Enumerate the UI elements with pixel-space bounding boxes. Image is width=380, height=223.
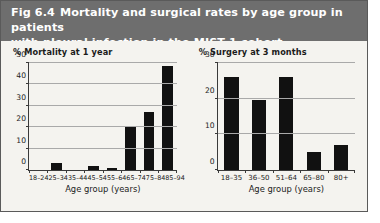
x-tick-label: 36–50 [245, 174, 272, 182]
bar-slot [328, 63, 355, 170]
gridline [218, 98, 355, 99]
y-tick-mark [26, 148, 29, 149]
y-tick-label: 10 [16, 135, 26, 144]
bar [88, 166, 99, 170]
y-tick-label: 50 [16, 50, 26, 59]
x-tick-mark [121, 170, 122, 173]
x-tick-label: 35–44 [68, 174, 87, 182]
y-tick-mark [215, 98, 218, 99]
gridline [218, 133, 355, 134]
figure-container: Fig 6.4Mortality and surgical rates by a… [0, 0, 368, 212]
y-tick-label: 0 [210, 157, 215, 166]
y-tick-mark [215, 133, 218, 134]
x-tick-mark [300, 170, 301, 173]
y-tick-mark [26, 62, 29, 63]
x-tick-mark [354, 170, 355, 173]
bar [334, 145, 348, 170]
bar-slot [158, 63, 176, 170]
x-tick-label: 55–64 [107, 174, 126, 182]
bar [162, 66, 173, 170]
figure-header: Fig 6.4Mortality and surgical rates by a… [1, 1, 367, 41]
bar [51, 163, 62, 170]
x-tick-mark [140, 170, 141, 173]
x-tick-mark [158, 170, 159, 173]
bar-group-mortality [29, 63, 177, 170]
y-tick-label: 40 [16, 71, 26, 80]
y-tick-label: 30 [16, 92, 26, 101]
bar-slot [300, 63, 327, 170]
x-tick-label: 51–64 [273, 174, 300, 182]
bar-slot [140, 63, 158, 170]
figure-title-line1: Mortality and surgical rates by age grou… [11, 6, 343, 34]
x-axis-title-surgery: Age group (years) [218, 184, 355, 194]
x-tick-mark [84, 170, 85, 173]
x-tick-mark [29, 170, 30, 173]
x-axis-title-mortality: Age group (years) [29, 184, 177, 194]
y-tick-mark [215, 62, 218, 63]
x-tick-label: 45–54 [87, 174, 106, 182]
bar [107, 168, 118, 170]
x-tick-label: 18–24 [29, 174, 48, 182]
bar [252, 100, 266, 170]
x-tick-label: 25–34 [48, 174, 67, 182]
y-tick-label: 30 [205, 50, 215, 59]
figure-number: Fig 6.4 [11, 6, 55, 19]
chart-title-mortality: % Mortality at 1 year [13, 47, 112, 57]
y-tick-mark [26, 126, 29, 127]
gridline [29, 126, 177, 127]
gridline [29, 148, 177, 149]
y-tick-label: 10 [205, 121, 215, 130]
x-tick-mark [273, 170, 274, 173]
x-tick-mark [328, 170, 329, 173]
y-tick-mark [26, 83, 29, 84]
bar [144, 112, 155, 170]
chart-panel-surgery: % Surgery at 3 months 18–3536–5051–6465–… [187, 41, 367, 211]
x-tick-label: 85–94 [165, 174, 184, 182]
bar [224, 77, 238, 170]
x-tick-label: 80+ [328, 174, 355, 182]
bar-slot [66, 63, 84, 170]
bar-slot [273, 63, 300, 170]
x-tick-mark [47, 170, 48, 173]
bar-slot [29, 63, 47, 170]
x-tick-labels-mortality: 18–2425–3435–4445–5455–6465–7475–8485–94 [29, 174, 177, 182]
bar-slot [103, 63, 121, 170]
y-tick-label: 0 [21, 157, 26, 166]
x-tick-mark [66, 170, 67, 173]
y-tick-mark [215, 169, 218, 170]
x-tick-label: 18–35 [218, 174, 245, 182]
plot-area-mortality: 18–2425–3435–4445–5455–6465–7475–8485–94… [28, 63, 177, 171]
y-tick-label: 20 [16, 114, 26, 123]
charts-row: % Mortality at 1 year 18–2425–3435–4445–… [1, 41, 367, 211]
bar-slot [218, 63, 245, 170]
gridline [218, 62, 355, 63]
bar-group-surgery [218, 63, 355, 170]
y-tick-label: 20 [205, 85, 215, 94]
x-tick-mark [245, 170, 246, 173]
gridline [29, 83, 177, 84]
bar-slot [47, 63, 65, 170]
bar-slot [84, 63, 102, 170]
gridline [29, 62, 177, 63]
bar [279, 77, 293, 170]
y-tick-mark [26, 169, 29, 170]
chart-panel-mortality: % Mortality at 1 year 18–2425–3435–4445–… [1, 41, 187, 211]
x-tick-mark [176, 170, 177, 173]
bar-slot [245, 63, 272, 170]
x-tick-mark [218, 170, 219, 173]
x-tick-mark [103, 170, 104, 173]
x-tick-label: 65–74 [126, 174, 145, 182]
x-tick-labels-surgery: 18–3536–5051–6465–8080+ [218, 174, 355, 182]
bar-slot [121, 63, 139, 170]
bar [307, 152, 321, 170]
x-tick-label: 75–84 [146, 174, 165, 182]
y-tick-mark [26, 105, 29, 106]
x-tick-label: 65–80 [300, 174, 327, 182]
gridline [29, 105, 177, 106]
plot-area-surgery: 18–3536–5051–6465–8080+ Age group (years… [217, 63, 355, 171]
